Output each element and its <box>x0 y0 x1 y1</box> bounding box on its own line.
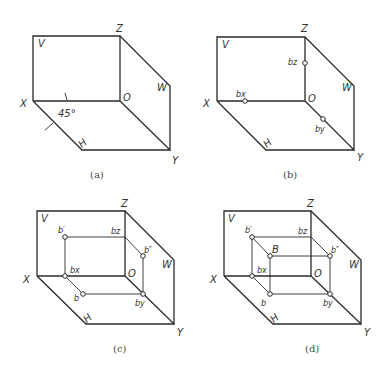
label-b-double-prime: b″ <box>144 246 152 255</box>
label-o: O <box>123 92 131 103</box>
label-b-prime: b′ <box>58 226 65 235</box>
point-b <box>268 292 273 297</box>
label-o: O <box>314 268 322 279</box>
h-plane-outline <box>217 101 354 150</box>
label-h: H <box>76 136 89 150</box>
h-plane-outline <box>224 276 361 324</box>
label-bz: bz <box>288 58 298 67</box>
label-v: V <box>222 39 230 50</box>
label-b: b <box>261 299 266 308</box>
v-plane-outline <box>33 36 120 101</box>
label-h: H <box>81 311 94 325</box>
panel-b: V Z O X W H Y bz bx by (b) <box>202 23 364 180</box>
point-b <box>81 292 86 297</box>
label-v: V <box>38 38 46 49</box>
v-plane-outline <box>37 211 125 276</box>
label-bz: bz <box>298 227 308 236</box>
label-bx: bx <box>257 266 267 275</box>
label-b-prime: b′ <box>245 226 252 235</box>
label-bx: bx <box>236 90 246 99</box>
label-bz: bz <box>111 227 121 236</box>
label-w: W <box>157 82 168 93</box>
label-v: V <box>228 213 236 224</box>
projection-diagram-figure: V Z O X W H Y 45° (a) V Z O X W H Y bz b… <box>0 0 387 376</box>
label-x: X <box>19 98 28 109</box>
point-bx <box>250 274 255 279</box>
point-bz <box>303 61 308 66</box>
point-bx <box>243 99 248 104</box>
point-bx <box>63 274 68 279</box>
label-o: O <box>128 268 136 279</box>
label-B: B <box>272 244 279 255</box>
panel-d: V Z O X W H Y b′ bz B b″ bx b by (d) <box>209 198 371 354</box>
point-by <box>141 292 146 297</box>
v-plane-outline <box>217 37 305 101</box>
label-by: by <box>135 299 145 308</box>
label-b: b <box>74 294 79 303</box>
label-by: by <box>323 299 333 308</box>
label-z: Z <box>120 198 129 209</box>
angle-tick-bottom <box>45 123 53 130</box>
label-v: V <box>41 213 49 224</box>
label-bx: bx <box>70 266 80 275</box>
label-x: X <box>209 274 218 285</box>
v-plane-outline <box>224 211 311 276</box>
label-z: Z <box>115 23 124 34</box>
panel-c: V Z O X W H Y b′ bz b″ bx b by (c) <box>22 198 184 354</box>
label-x: X <box>22 274 31 285</box>
label-z: Z <box>300 23 309 34</box>
label-y: Y <box>177 327 184 338</box>
h-plane-outline <box>33 101 170 150</box>
label-angle-45: 45° <box>58 108 76 119</box>
caption-d: (d) <box>305 343 319 354</box>
point-by <box>321 117 326 122</box>
caption-c: (c) <box>113 343 127 354</box>
label-w: W <box>162 259 173 270</box>
label-x: X <box>202 98 211 109</box>
label-w: W <box>349 259 360 270</box>
panel-a: V Z O X W H Y 45° (a) <box>19 23 179 180</box>
label-y: Y <box>357 152 364 163</box>
point-b-prime <box>250 235 255 240</box>
label-o: O <box>308 93 316 104</box>
h-plane-outline <box>37 276 174 324</box>
caption-b: (b) <box>283 169 297 180</box>
label-y: Y <box>172 155 179 166</box>
label-b-double-prime: b″ <box>331 246 339 255</box>
caption-a: (a) <box>90 169 104 180</box>
angle-tick-top <box>65 93 67 100</box>
point-b-prime <box>63 235 68 240</box>
label-y: Y <box>364 327 371 338</box>
label-h: H <box>268 311 281 325</box>
label-by: by <box>315 125 325 134</box>
label-z: Z <box>306 198 315 209</box>
point-by <box>328 292 333 297</box>
box-edges-top <box>252 237 330 256</box>
label-w: W <box>342 82 353 93</box>
